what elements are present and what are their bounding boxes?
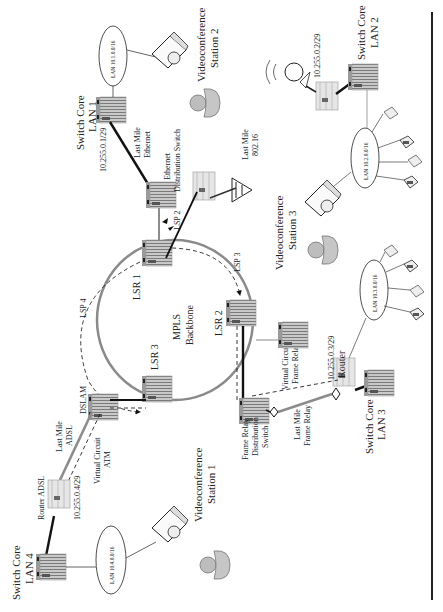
lan2-switch-label-line2: LAN 2 (368, 17, 380, 48)
eth-dist-switch-line1: Ethernet (163, 152, 172, 180)
lan3-link-ip: 10.255.0.3/29 (327, 336, 336, 380)
ethernet-distribution-switch-icon[interactable] (146, 182, 176, 208)
vc-station2-line2: Station 2 (208, 29, 220, 68)
lan2-pc-icon-2 (408, 155, 422, 167)
lan3-vc-line2: Frame Relay (291, 343, 300, 384)
lan2-link-ip: 10.255.0.2/29 (313, 34, 322, 78)
mpls-title-line1: MPLS (171, 314, 182, 340)
network-diagram: LSR 1 LSR 3 LSR 2 MPLS Backbone LSP 4 LS… (0, 0, 443, 612)
lan1-last-mile-line1: Last Mile (133, 127, 142, 158)
lan2-pc-icon (384, 107, 398, 119)
lsr2-label: LSR 2 (213, 310, 224, 336)
lan3-last-mile-line1: Last Mile (293, 409, 302, 440)
lan1-switch-label-line1: Switch Core (74, 95, 86, 150)
lan3-phone-icon-2 (410, 308, 424, 320)
eth-dist-switch-line2: Distribution Switch (173, 129, 182, 192)
person-3-icon (308, 236, 338, 264)
lan4-vc-line2: ATM (103, 451, 112, 468)
vc-station1-line1: Videoconference (192, 447, 204, 522)
lan3-vc-line1: Virtual Circuit (281, 343, 290, 390)
dslam-icon[interactable] (88, 394, 118, 420)
lsr2-router-icon[interactable] (226, 300, 256, 326)
lan4-switch-label-line2: LAN 4 (23, 553, 35, 584)
lan1-switch-label-line2: LAN 1 (86, 101, 98, 132)
lan3-switch-label-line1: Switch Core (363, 399, 375, 454)
lan2-last-mile-line2: 802.16 (251, 134, 260, 156)
lan4-link-ip: 10.255.0.4/29 (73, 476, 82, 520)
lan1-last-mile-line2: Ethernet (143, 130, 152, 158)
lan4-router-label: Router ADSL (37, 476, 46, 520)
lan2-phone-icon-1 (400, 136, 414, 148)
videoconference-projector-3-icon (305, 180, 341, 216)
lan1-lan-label: LAN 10.1.0.0/16 (110, 40, 116, 78)
fr-dist-switch-line3: Switch (261, 426, 270, 448)
lsr1-label: LSR 1 (131, 274, 142, 300)
lan2-last-mile-line1: Last Mile (241, 129, 250, 160)
lan4-switch-label-line1: Switch Core (10, 545, 22, 600)
vc-station1-line2: Station 1 (205, 465, 217, 504)
lan4-vc-line1: Virtual Circuit (93, 437, 102, 484)
lan3-phone-icon-1 (404, 260, 418, 272)
lan2-phone-icon-2 (404, 176, 418, 188)
switch-core-lan2-icon[interactable] (348, 64, 378, 90)
lan3-switch-label-line2: LAN 3 (375, 409, 387, 440)
lan2-switch-label-line1: Switch Core (355, 5, 367, 60)
lsr2-side-switch-icon[interactable] (278, 322, 308, 348)
mpls-title-line2: Backbone (184, 304, 195, 345)
lan4-last-mile-line1: Last Mile (55, 421, 64, 452)
videoconference-projector-2-icon (152, 32, 188, 68)
vc-station3-line1: Videoconference (273, 195, 285, 270)
lan3-lan-label: LAN 10.3.0.0/16 (372, 274, 378, 312)
lan3-last-mile-line2: Frame Relay (303, 405, 312, 446)
lan3-pc-icon-2 (410, 285, 424, 297)
dslam-label: DSLAM (79, 386, 88, 414)
switch-core-lan3-icon[interactable] (364, 370, 394, 396)
vc-station3-line2: Station 3 (286, 210, 298, 250)
vc-station2-line1: Videoconference (195, 7, 207, 82)
satellite-dish-icon (266, 60, 310, 88)
wimax-base-router-icon[interactable] (193, 172, 215, 200)
lan2-router-icon[interactable] (316, 82, 338, 110)
router-adsl-icon[interactable] (48, 480, 70, 508)
lan3-router-label: Router (336, 350, 347, 378)
person-2-icon (190, 89, 220, 117)
fr-dist-switch-line2: Distribution (251, 417, 260, 456)
lan2-lan-label: LAN 10.2.0.0/16 (363, 142, 369, 180)
lsp3-path (172, 248, 240, 295)
wimax-tower-icon (232, 178, 252, 202)
lan4-lan-label: LAN 10.4.0.0/16 (109, 546, 115, 584)
switch-core-lan1-icon[interactable] (96, 97, 126, 123)
lsr3-router-icon[interactable] (142, 376, 172, 402)
fr-dist-switch-line1: Frame Relay (241, 419, 250, 460)
lan1-link-ip: 10.255.0.1/29 (99, 128, 108, 172)
lan4-last-mile-line2: ADSL (65, 425, 74, 446)
lan3-pc-icon (384, 245, 398, 257)
person-1-icon (200, 551, 230, 579)
videoconference-projector-1-icon (152, 506, 188, 542)
lsp4-label: LSP 4 (79, 299, 88, 319)
lsp3-label: LSP 3 (233, 253, 242, 273)
lsr3-label: LSR 3 (149, 344, 160, 370)
switch-core-lan4-icon[interactable] (36, 554, 66, 580)
